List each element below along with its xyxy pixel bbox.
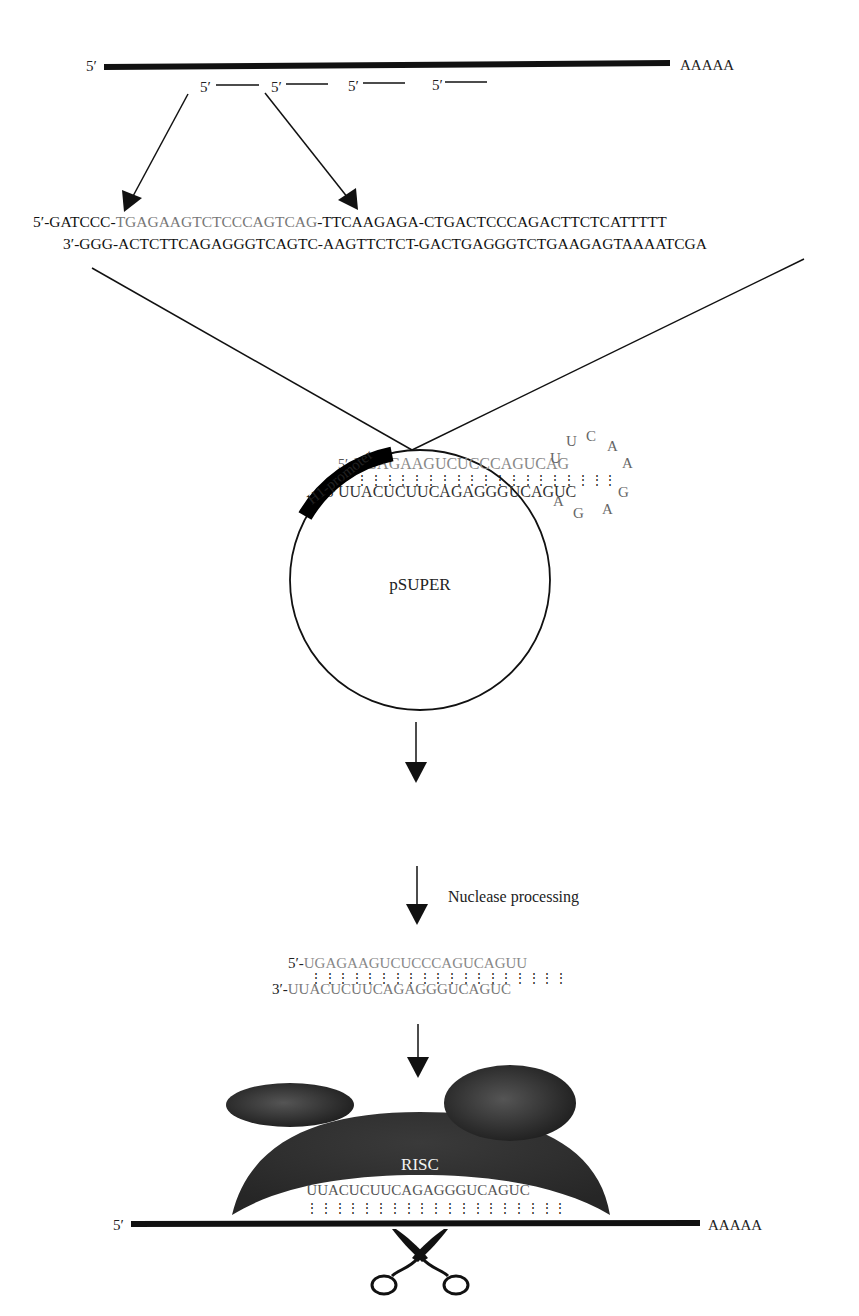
oligo-bottom-strand: 3′-GGG-ACTCTTCAGAGGGTCAGTC-AAGTTCTCT-GAC…: [63, 235, 708, 252]
oligo-insert: 5′-GATCCC-TGAGAAGTCTCCCAGTCAG-TTCAAGAGA-…: [33, 213, 708, 252]
poly-a-tail-label: AAAAA: [680, 57, 734, 73]
sirna-duplex: 5′-UGAGAAGUCUCCCAGUCAGUU ⋮ ⋮ ⋮ ⋮ ⋮ ⋮ ⋮ ⋮…: [272, 955, 566, 997]
oligo-top-strand: 5′-GATCCC-TGAGAAGTCTCCCAGTCAG-TTCAAGAGA-…: [33, 213, 667, 230]
selection-arrows: [122, 93, 358, 212]
insertion-line-right: [412, 259, 804, 450]
mrna-five-prime-label: 5′: [113, 1217, 124, 1233]
processing-label: Nuclease processing: [448, 888, 579, 906]
arrow-line: [265, 93, 348, 198]
loop-base: A: [622, 455, 633, 471]
loop-base: G: [573, 505, 584, 521]
arrow-down-icon: [406, 904, 428, 925]
sirna-antisense-prefix: 3′-: [272, 981, 288, 997]
risc-label: RISC: [401, 1155, 439, 1174]
sirna-sense-prefix: 5′-: [288, 955, 304, 971]
loop-base: A: [553, 493, 564, 509]
loop-base: U: [550, 450, 561, 466]
arrow-head-icon: [122, 190, 142, 212]
arrow-down-icon: [405, 762, 427, 783]
insertion-lines: [92, 259, 804, 450]
loop-base: U: [566, 433, 577, 449]
target-site-label: 5′: [271, 79, 282, 95]
psuper-vector: pSUPER 5′ UGAGAAGUCUCCCAGUCAG ⋮ ⋮ ⋮ ⋮ ⋮ …: [290, 428, 633, 710]
base-pairing-dots: ⋮ ⋮ ⋮ ⋮ ⋮ ⋮ ⋮ ⋮ ⋮ ⋮ ⋮ ⋮ ⋮ ⋮ ⋮ ⋮ ⋮ ⋮ ⋮: [306, 1201, 566, 1215]
arrow-head-icon: [338, 188, 358, 210]
target-mrna-strand: [131, 1223, 700, 1224]
oligo-sense-target: TGAGAAGTCTCCCAGTCAG: [116, 213, 318, 230]
loop-base: A: [602, 501, 613, 517]
oligo-top-prefix: 5′-GATCCC-: [33, 213, 116, 230]
target-site-label: 5′: [348, 78, 359, 94]
risc-guide-strand: UUACUCUUCAGAGGGUCAGUC: [306, 1182, 529, 1198]
poly-a-tail-label: AAAAA: [708, 1217, 762, 1233]
loop-base: A: [607, 438, 618, 454]
plasmid-label: pSUPER: [389, 575, 451, 594]
scissors-icon: [372, 1229, 468, 1294]
sirna-antisense-sequence: UUACUCUUCAGAGGGUCAGUC: [288, 981, 511, 997]
risc-left-lobe: [226, 1083, 354, 1127]
mrna-five-prime-label: 5′: [86, 58, 97, 74]
risc-complex: RISC UUACUCUUCAGAGGGUCAGUC ⋮ ⋮ ⋮ ⋮ ⋮ ⋮ ⋮…: [226, 1065, 610, 1215]
insertion-line-left: [92, 268, 412, 450]
sirna-antisense-strand: 3′-UUACUCUUCAGAGGGUCAGUC: [272, 981, 511, 997]
oligo-top-suffix: -TTCAAGAGA-CTGACTCCCAGACTTCTCATTTTT: [317, 213, 667, 230]
target-sites: 5′ 5′ 5′ 5′: [200, 77, 487, 95]
mrna-strand: [104, 63, 670, 67]
risc-right-lobe: [444, 1065, 576, 1141]
rnai-diagram: 5′ AAAAA 5′ 5′ 5′ 5′ 5′-GATCCC-TGAGAAGTC…: [0, 0, 859, 1316]
arrow-line: [132, 94, 188, 198]
top-mrna: 5′ AAAAA: [86, 57, 734, 74]
target-site-label: 5′: [200, 79, 211, 95]
arrow-down-icon: [407, 1057, 429, 1078]
sirna-sense-sequence: UGAGAAGUCUCCCAGUCAGUU: [304, 955, 528, 971]
loop-base: G: [618, 484, 629, 500]
hairpin-bottom-strand: UUACUCUUCAGAGGGUCAGUC: [338, 483, 576, 500]
process-arrows: Nuclease processing: [405, 722, 579, 1078]
bottom-mrna: 5′ AAAAA: [113, 1217, 762, 1233]
target-site-label: 5′: [432, 77, 443, 93]
sirna-sense-strand: 5′-UGAGAAGUCUCCCAGUCAGUU: [288, 955, 527, 971]
loop-base: C: [586, 428, 596, 444]
